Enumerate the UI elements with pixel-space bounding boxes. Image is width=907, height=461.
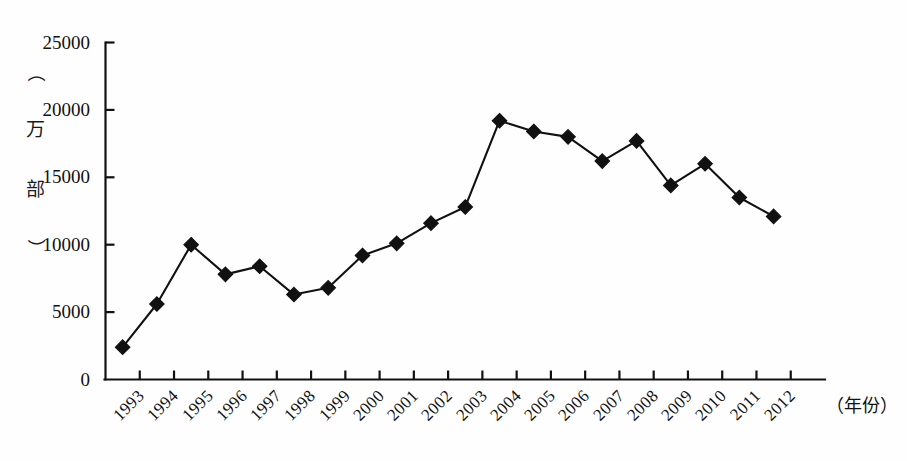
data-point-marker (390, 236, 404, 250)
data-point-marker (458, 200, 472, 214)
series-polyline (123, 121, 774, 347)
plot-area (0, 0, 907, 461)
data-point-marker (424, 216, 438, 230)
data-line (123, 121, 774, 347)
x-axis-ticks (140, 371, 791, 380)
data-point-marker (492, 113, 506, 127)
data-point-marker (766, 209, 780, 223)
line-chart: （ 万 部 ） （年份） 0500010000150002000025000 1… (0, 0, 907, 461)
data-markers (115, 113, 780, 354)
data-point-marker (595, 154, 609, 168)
data-point-marker (561, 130, 575, 144)
data-point-marker (527, 124, 541, 138)
y-axis-ticks (106, 43, 115, 313)
